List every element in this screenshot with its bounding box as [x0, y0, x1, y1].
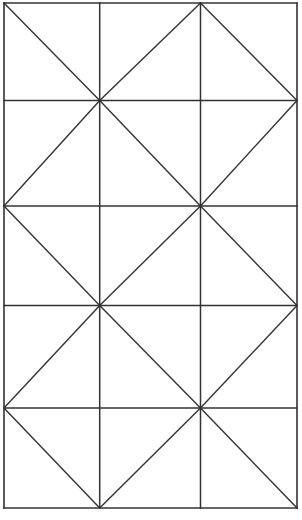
canvas-background [0, 0, 302, 520]
tessellated-triangle-grid [0, 0, 302, 520]
figure-root [0, 0, 302, 520]
